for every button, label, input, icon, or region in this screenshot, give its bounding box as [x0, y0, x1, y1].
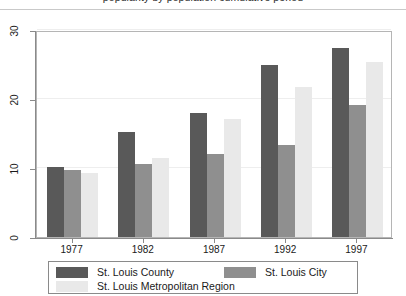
x-axis-tick: [143, 239, 144, 243]
legend-swatch-metro-region: [56, 281, 88, 292]
bar: [190, 113, 207, 237]
bar: [349, 105, 366, 237]
y-axis-label: 0: [9, 235, 20, 241]
legend-label-county: St. Louis County: [97, 266, 174, 278]
bar: [366, 62, 383, 237]
y-axis-label: 30: [9, 25, 20, 36]
bar: [81, 173, 98, 237]
title-text: popularity by population cumulative peri…: [103, 0, 303, 3]
y-axis-label: 20: [9, 94, 20, 105]
bar: [64, 170, 81, 237]
legend-label-metro-region: St. Louis Metropolitan Region: [97, 280, 235, 292]
bar: [224, 119, 241, 237]
x-axis-tick: [214, 239, 215, 243]
bar: [47, 167, 64, 237]
y-axis-tick: [30, 31, 35, 32]
y-axis-tick: [30, 100, 35, 101]
legend-entry-metro-region: St. Louis Metropolitan Region: [56, 280, 235, 292]
x-axis-tick: [72, 239, 73, 243]
y-axis-line: [35, 31, 36, 239]
bar: [278, 145, 295, 237]
legend-entry-city: St. Louis City: [224, 266, 327, 278]
y-axis-label: 10: [9, 163, 20, 174]
x-axis-label: 1982: [132, 244, 154, 255]
bar: [207, 154, 224, 237]
legend-swatch-county: [56, 267, 88, 278]
x-axis-label: 1997: [345, 244, 367, 255]
bar: [152, 158, 169, 237]
bar: [135, 164, 152, 237]
x-axis-tick: [356, 239, 357, 243]
legend-entry-county: St. Louis County: [56, 266, 174, 278]
gridline: [37, 29, 391, 30]
x-axis-label: 1992: [274, 244, 296, 255]
y-axis-tick: [30, 238, 35, 239]
legend-swatch-city: [224, 267, 256, 278]
legend: St. Louis County St. Louis Metropolitan …: [48, 261, 358, 294]
bar: [295, 87, 312, 237]
clipped-title: popularity by population cumulative peri…: [0, 0, 406, 9]
bar-chart-figure: popularity by population cumulative peri…: [0, 0, 406, 296]
bar: [332, 48, 349, 237]
plot-area: [36, 31, 392, 238]
legend-label-city: St. Louis City: [265, 266, 327, 278]
bar: [261, 65, 278, 238]
x-axis-label: 1977: [60, 244, 82, 255]
y-axis-tick: [30, 169, 35, 170]
x-axis-tick: [285, 239, 286, 243]
x-axis-label: 1987: [203, 244, 225, 255]
bar: [118, 132, 135, 237]
top-divider: [0, 9, 406, 10]
